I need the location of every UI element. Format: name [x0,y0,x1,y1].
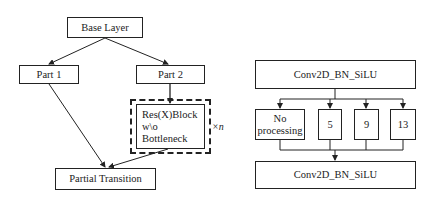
top-conv-label: Conv2D_BN_SiLU [294,69,377,81]
branch-no-processing-line1: No [258,113,303,125]
repeat-label: ×n [212,121,224,132]
resblock-label-line1: Res(X)Block [142,109,197,121]
part1-label: Part 1 [37,69,62,81]
partial-transition-box: Partial Transition [55,168,156,190]
base-layer-label: Base Layer [81,22,129,34]
resblock-label-line2: w\o [142,121,197,133]
base-layer-box: Base Layer [67,17,143,38]
part2-box: Part 2 [136,65,205,84]
part2-label: Part 2 [158,69,183,81]
arrow-base-to-part1 [49,38,105,64]
top-conv-block: Conv2D_BN_SiLU [255,60,416,89]
arrow-part1-to-transition [49,84,105,167]
branch-pool-9-label: 9 [364,119,369,131]
branch-no-processing-line2: processing [258,125,303,137]
resblock-box: Res(X)Block w\o Bottleneck [136,104,205,149]
branch-pool-5-label: 5 [327,119,332,131]
part1-box: Part 1 [19,65,79,84]
resblock-label-line3: Bottleneck [142,133,197,145]
branch-pool-13-label: 13 [398,119,409,131]
branch-pool-9-box: 9 [354,109,379,140]
arrow-base-to-part2 [105,38,168,64]
partial-transition-label: Partial Transition [69,173,142,185]
branch-pool-5-box: 5 [318,109,342,140]
branch-no-processing-box: No processing [255,109,305,140]
branch-pool-13-box: 13 [390,109,416,140]
bottom-conv-block: Conv2D_BN_SiLU [255,161,416,189]
bottom-conv-label: Conv2D_BN_SiLU [294,169,377,181]
